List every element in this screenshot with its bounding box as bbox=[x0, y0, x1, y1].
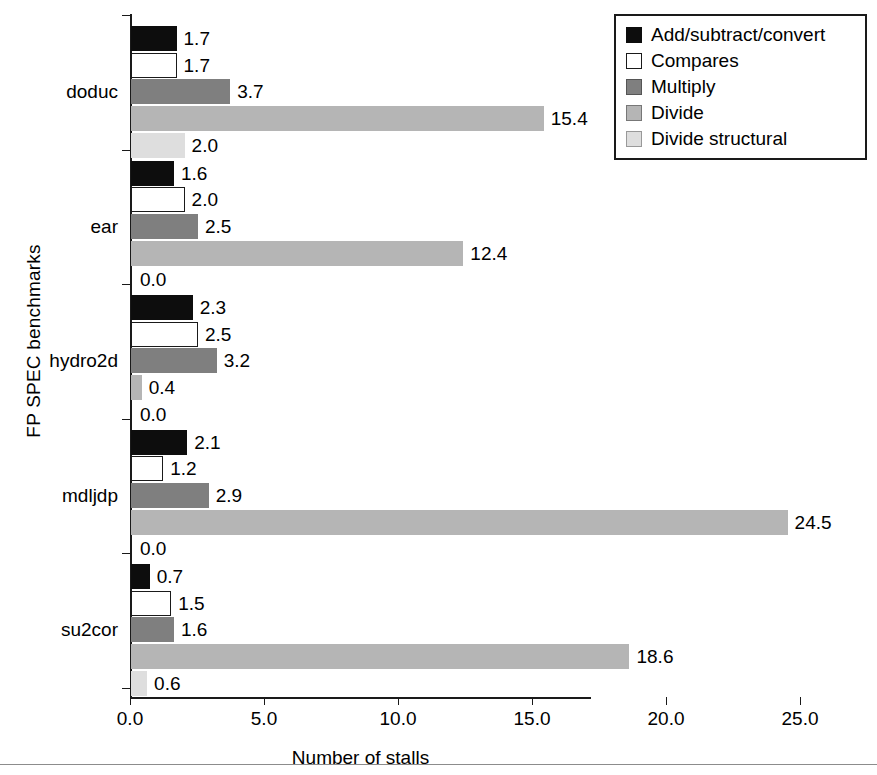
bar-su2cor-divide bbox=[131, 644, 629, 669]
bar-mdljdp-compares bbox=[131, 456, 163, 481]
category-label: ear bbox=[0, 216, 118, 238]
category-label: doduc bbox=[0, 81, 118, 103]
bar-value-label: 24.5 bbox=[795, 510, 832, 535]
page-bottom-rule bbox=[0, 764, 877, 765]
bar-value-label: 18.6 bbox=[636, 644, 673, 669]
bar-su2cor-compares bbox=[131, 591, 171, 616]
x-axis-tick-label: 20.0 bbox=[631, 708, 701, 730]
bar-doduc-divide bbox=[131, 106, 544, 131]
black-swatch bbox=[626, 27, 642, 43]
bar-value-label: 3.2 bbox=[224, 348, 250, 373]
x-axis-line bbox=[130, 697, 591, 699]
legend-item-label: Add/subtract/convert bbox=[651, 24, 825, 46]
legend-item: Compares bbox=[626, 49, 857, 72]
bar-hydro2d-compares bbox=[131, 322, 198, 347]
legend-item-label: Divide bbox=[651, 102, 704, 124]
bar-value-label: 1.5 bbox=[178, 591, 204, 616]
white-swatch bbox=[626, 53, 642, 69]
bar-ear-multiply bbox=[131, 214, 198, 239]
x-axis-tick bbox=[130, 697, 131, 705]
chart-legend: Add/subtract/convertComparesMultiplyDivi… bbox=[614, 14, 867, 160]
light-gray-swatch bbox=[626, 131, 642, 147]
bar-value-label: 2.0 bbox=[192, 187, 218, 212]
legend-item: Divide bbox=[626, 101, 857, 124]
bar-value-label: 1.6 bbox=[181, 161, 207, 186]
legend-item-label: Divide structural bbox=[651, 128, 787, 150]
bar-value-label: 2.5 bbox=[205, 322, 231, 347]
legend-item: Divide structural bbox=[626, 127, 857, 150]
bar-value-label: 12.4 bbox=[470, 241, 507, 266]
bar-value-label: 0.4 bbox=[149, 375, 175, 400]
category-label: mdljdp bbox=[0, 485, 118, 507]
bar-value-label: 15.4 bbox=[551, 106, 588, 131]
bar-value-label: 1.7 bbox=[184, 26, 210, 51]
bar-value-label: 2.3 bbox=[200, 295, 226, 320]
bar-value-label: 0.7 bbox=[157, 564, 183, 589]
bar-value-label: 3.7 bbox=[237, 79, 263, 104]
x-axis-tick-label: 10.0 bbox=[363, 708, 433, 730]
bar-value-label: 1.7 bbox=[184, 53, 210, 78]
x-axis-tick bbox=[800, 697, 801, 705]
bar-hydro2d-multiply bbox=[131, 348, 217, 373]
bar-doduc-add-subtract-convert bbox=[131, 26, 177, 51]
category-label: su2cor bbox=[0, 619, 118, 641]
x-axis-tick-label: 25.0 bbox=[765, 708, 835, 730]
bar-ear-divide bbox=[131, 241, 463, 266]
bar-chart-figure: FP SPEC benchmarks 0.05.010.015.020.025.… bbox=[0, 0, 877, 775]
bar-group-mdljdp: mdljdp2.11.22.924.50.0 bbox=[130, 418, 877, 553]
x-axis-tick bbox=[666, 697, 667, 705]
bar-su2cor-multiply bbox=[131, 617, 174, 642]
bar-su2cor-divide-structural bbox=[131, 671, 147, 696]
x-axis-tick-label: 5.0 bbox=[229, 708, 299, 730]
x-axis-tick-label: 0.0 bbox=[95, 708, 165, 730]
legend-item-label: Compares bbox=[651, 50, 739, 72]
x-axis-tick bbox=[532, 697, 533, 705]
bar-ear-add-subtract-convert bbox=[131, 161, 174, 186]
legend-item-label: Multiply bbox=[651, 76, 715, 98]
bar-hydro2d-add-subtract-convert bbox=[131, 295, 193, 320]
legend-item: Add/subtract/convert bbox=[626, 23, 857, 46]
bar-value-label: 1.6 bbox=[181, 617, 207, 642]
bar-doduc-compares bbox=[131, 53, 177, 78]
bar-ear-compares bbox=[131, 187, 185, 212]
bar-group-su2cor: su2cor0.71.51.618.60.6 bbox=[130, 552, 877, 687]
category-label: hydro2d bbox=[0, 350, 118, 372]
x-axis-tick bbox=[264, 697, 265, 705]
bar-value-label: 2.1 bbox=[194, 430, 220, 455]
bar-value-label: 2.5 bbox=[205, 214, 231, 239]
bar-mdljdp-divide bbox=[131, 510, 788, 535]
x-axis-tick-label: 15.0 bbox=[497, 708, 567, 730]
bar-su2cor-add-subtract-convert bbox=[131, 564, 150, 589]
bar-group-ear: ear1.62.02.512.40.0 bbox=[130, 149, 877, 284]
y-axis-title: FP SPEC benchmarks bbox=[23, 211, 45, 471]
medium-gray-swatch bbox=[626, 105, 642, 121]
bar-value-label: 2.9 bbox=[216, 483, 242, 508]
bar-mdljdp-add-subtract-convert bbox=[131, 430, 187, 455]
x-axis-title: Number of stalls bbox=[130, 747, 591, 769]
bar-value-label: 0.6 bbox=[154, 671, 180, 696]
legend-item: Multiply bbox=[626, 75, 857, 98]
bar-doduc-multiply bbox=[131, 79, 230, 104]
bar-group-hydro2d: hydro2d2.32.53.20.40.0 bbox=[130, 283, 877, 418]
dark-gray-swatch bbox=[626, 79, 642, 95]
bar-value-label: 1.2 bbox=[170, 456, 196, 481]
bar-hydro2d-divide bbox=[131, 375, 142, 400]
y-axis-tick bbox=[122, 688, 131, 689]
bar-mdljdp-multiply bbox=[131, 483, 209, 508]
x-axis-tick bbox=[398, 697, 399, 705]
